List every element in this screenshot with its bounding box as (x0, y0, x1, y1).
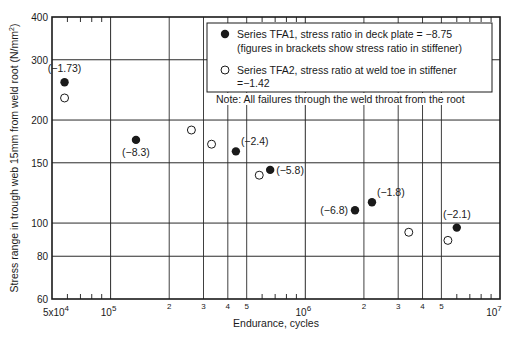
tfa2-open-point (61, 94, 69, 102)
y-tick-label: 400 (31, 12, 48, 23)
legend-series-1-line-2: (figures in brackets show stress ratio i… (237, 42, 462, 54)
tfa2-open-point (208, 140, 216, 148)
y-tick-label: 60 (37, 294, 49, 305)
x-minor-tick-label: 5 (244, 302, 249, 311)
legend-series-1-line-1: Series TFA1, stress ratio in deck plate … (237, 28, 452, 40)
point-stress-ratio-label: (−5.8) (276, 164, 304, 176)
x-tick-label: 106 (296, 304, 312, 318)
x-minor-tick-label: 5 (439, 302, 444, 311)
x-tick-label: 105 (101, 304, 117, 318)
point-stress-ratio-label: (−1.8) (377, 186, 405, 198)
x-tick-label: 107 (486, 304, 502, 318)
tfa1-filled-point (266, 166, 274, 174)
tfa2-open-point (444, 236, 452, 244)
tfa1-filled-point (368, 198, 376, 206)
tfa1-filled-point (232, 147, 240, 155)
legend-series-2-line-1: Series TFA2, stress ratio at weld toe in… (237, 64, 457, 76)
x-axis-title: Endurance, cycles (233, 317, 319, 329)
tfa1-filled-point (132, 136, 140, 144)
legend-series-2-line-2: =−1.42 (237, 77, 270, 89)
x-minor-tick-label: 4 (420, 302, 425, 311)
y-axis-title: Stress range in trough web 15mm from wel… (8, 24, 20, 293)
tfa1-filled-point (453, 223, 461, 231)
point-stress-ratio-label: (−6.8) (320, 204, 348, 216)
point-stress-ratio-label: (−2.1) (443, 208, 471, 220)
point-stress-ratio-label: (−2.4) (241, 135, 269, 147)
tfa2-open-point (405, 228, 413, 236)
point-stress-ratio-label: (−8.3) (122, 146, 150, 158)
failure-note: Note: All failures through the weld thro… (216, 93, 465, 105)
x-tick-label: 5x104 (43, 304, 70, 318)
y-tick-label: 200 (31, 115, 48, 126)
x-minor-tick-label: 2 (362, 302, 367, 311)
filled-circle-marker-icon (221, 30, 229, 38)
y-tick-label: 100 (31, 218, 48, 229)
point-stress-ratio-label: (−1.73) (48, 62, 82, 74)
x-axis-tick-labels: 5x10410510610723452345 (43, 302, 502, 318)
tfa2-open-point (255, 171, 263, 179)
x-minor-tick-label: 3 (396, 302, 401, 311)
y-axis-tick-labels: 4003002001501008060 (31, 12, 48, 305)
open-circle-marker-icon (221, 66, 229, 74)
tfa1-filled-point (351, 206, 359, 214)
legend: Series TFA1, stress ratio in deck plate … (207, 23, 492, 92)
sn-fatigue-chart: 4003002001501008060 5x104105106107234523… (0, 0, 516, 342)
x-minor-tick-label: 2 (167, 302, 172, 311)
x-minor-tick-label: 4 (226, 302, 231, 311)
y-tick-label: 150 (31, 158, 48, 169)
x-minor-tick-label: 3 (201, 302, 206, 311)
y-tick-label: 80 (37, 251, 49, 262)
tfa1-filled-point (60, 78, 68, 86)
tfa2-open-point (187, 126, 195, 134)
y-tick-label: 300 (31, 55, 48, 66)
